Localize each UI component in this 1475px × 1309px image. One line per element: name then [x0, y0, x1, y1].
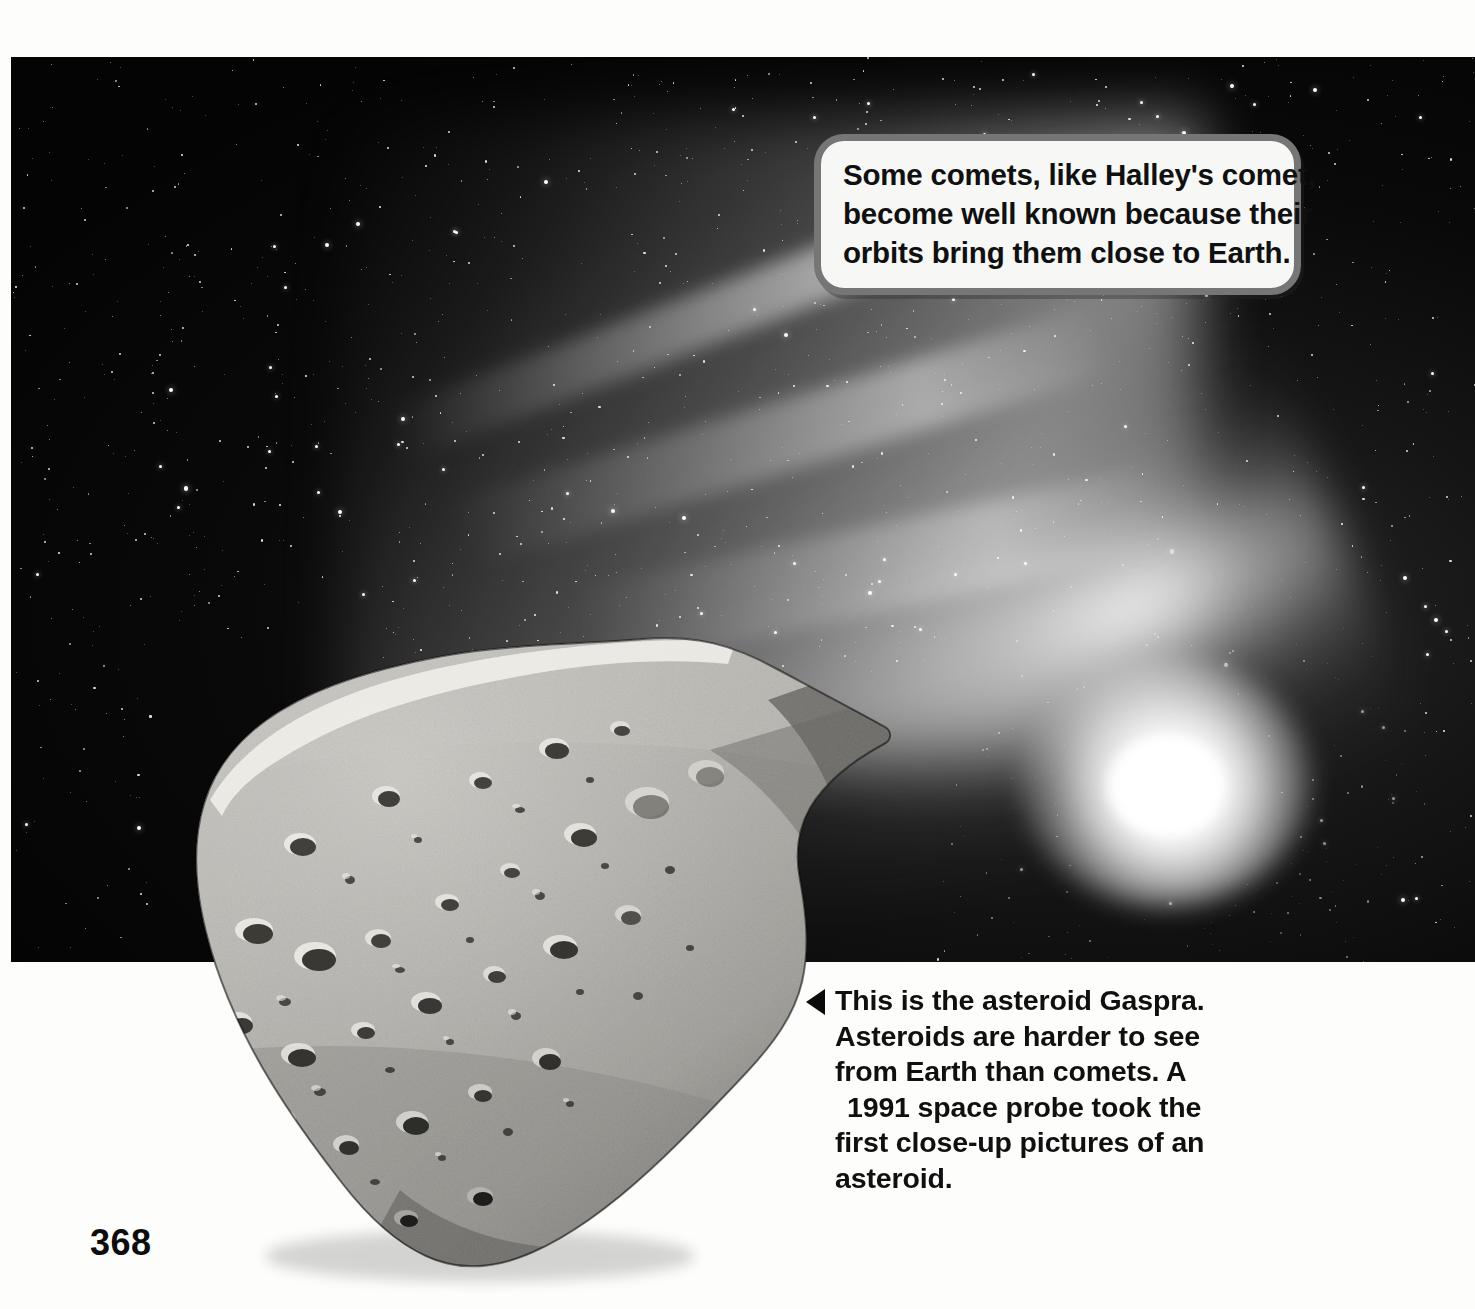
callout-line-1: Some comets, like Halley's comet, — [843, 155, 1274, 194]
caption-line-6: asteroid. — [835, 1161, 1236, 1197]
page-number: 368 — [90, 1222, 152, 1264]
left-triangle-icon — [806, 989, 825, 1015]
callout-line-3: orbits bring them close to Earth. — [843, 233, 1274, 272]
caption-line-4: 1991 space probe took the — [835, 1090, 1236, 1126]
caption-line-5: first close-up pictures of an — [835, 1125, 1236, 1161]
callout-line-2: become well known because their — [843, 194, 1274, 233]
caption-line-3: from Earth than comets. A — [835, 1054, 1236, 1090]
caption-line-2: Asteroids are harder to see — [835, 1019, 1236, 1055]
textbook-page: Some comets, like Halley's comet, become… — [0, 0, 1475, 1309]
comet-callout: Some comets, like Halley's comet, become… — [814, 134, 1301, 295]
caption-line-1: This is the asteroid Gaspra. — [835, 983, 1205, 1019]
asteroid-caption: This is the asteroid Gaspra. Asteroids a… — [806, 983, 1236, 1196]
